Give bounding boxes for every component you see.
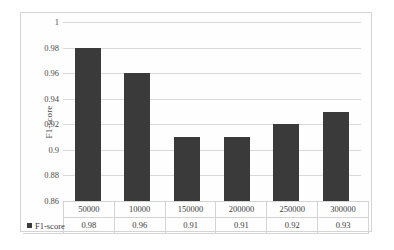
y-axis-tick-label: 0.92	[44, 120, 59, 129]
bar-slot	[311, 22, 361, 201]
y-axis-tick-label: 0.96	[44, 69, 59, 78]
legend-swatch-icon	[27, 223, 32, 228]
bars-layer	[63, 22, 361, 201]
table-row-values: F1-score 0.980.960.910.910.920.93	[23, 218, 369, 234]
table-cell-category: 200000	[216, 202, 267, 218]
bar[interactable]	[174, 137, 200, 201]
table-cell-value: 0.96	[114, 218, 165, 234]
table-cell-category: 10000	[114, 202, 165, 218]
bar-slot	[113, 22, 163, 201]
y-axis-tick-label: 0.98	[44, 43, 59, 52]
y-axis-tick-label: 0.88	[44, 171, 59, 180]
bar[interactable]	[224, 137, 250, 201]
table-cell-category: 300000	[318, 202, 369, 218]
table-row-categories: 5000010000150000200000250000300000	[23, 202, 369, 218]
table-cell-category: 50000	[64, 202, 115, 218]
y-axis-tick-label: 0.9	[48, 146, 59, 155]
table-cell-category: 250000	[267, 202, 318, 218]
chart-frame: F1-score 10.980.960.940.920.90.880.86 50…	[20, 12, 372, 232]
y-axis-tick-label: 1	[55, 18, 59, 27]
bar[interactable]	[323, 112, 349, 202]
y-axis-tick-label: 0.94	[44, 94, 59, 103]
bar[interactable]	[124, 73, 150, 201]
bar[interactable]	[75, 48, 101, 201]
table-cell-value: 0.91	[216, 218, 267, 234]
table-cell-value: 0.91	[165, 218, 216, 234]
legend-label: F1-score	[35, 220, 65, 230]
table-cell-value: 0.93	[318, 218, 369, 234]
plot-area: 10.980.960.940.920.90.880.86	[63, 22, 361, 201]
bar-slot	[162, 22, 212, 201]
legend-cell: F1-score	[23, 218, 64, 234]
bar[interactable]	[273, 124, 299, 201]
bar-slot	[212, 22, 262, 201]
bar-slot	[63, 22, 113, 201]
data-table: 5000010000150000200000250000300000 F1-sc…	[23, 201, 369, 234]
table-cell-value: 0.98	[64, 218, 115, 234]
bar-slot	[262, 22, 312, 201]
table-cell-category: 150000	[165, 202, 216, 218]
table-corner-blank	[23, 202, 64, 218]
table-cell-value: 0.92	[267, 218, 318, 234]
